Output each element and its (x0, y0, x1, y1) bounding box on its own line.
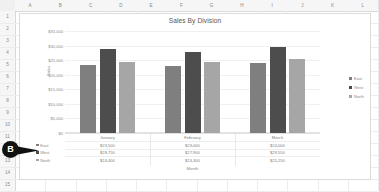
bar-north-january[interactable] (119, 62, 135, 133)
data-table-cell: $23,000 (150, 143, 235, 148)
y-axis-tick-label: $30,000 (23, 43, 63, 48)
legend-item-east[interactable]: East (349, 76, 364, 81)
data-table-cell: $24,000 (235, 143, 320, 148)
column-header-f[interactable]: F (166, 0, 197, 11)
select-all-corner[interactable] (0, 0, 16, 11)
column-header-e[interactable]: E (136, 0, 167, 11)
legend-swatch-icon (349, 86, 352, 89)
data-table-cell: $24,400 (65, 158, 150, 163)
bar-group (65, 31, 150, 133)
y-axis-tick-label: $20,000 (23, 72, 63, 77)
bar-group (235, 31, 320, 133)
bar-north-february[interactable] (204, 62, 220, 133)
legend-swatch-icon (349, 77, 352, 80)
column-header-h[interactable]: H (227, 0, 258, 11)
y-axis-tick-label: $15,000 (23, 87, 63, 92)
y-axis-tick-label: $35,000 (23, 29, 63, 34)
y-axis-tick-label: $5,000 (23, 116, 63, 121)
callout-badge-b: B (2, 141, 36, 160)
column-header-i[interactable]: I (257, 0, 288, 11)
data-table-header-march: March (235, 135, 320, 140)
data-table-cell: $28,750 (65, 150, 150, 155)
column-header-c[interactable]: C (76, 0, 107, 11)
chart-title: Sales By Division (20, 17, 370, 24)
data-table-key-label: East (40, 143, 48, 148)
column-header-l[interactable]: L (348, 0, 379, 11)
bar-east-february[interactable] (165, 66, 181, 133)
data-table-cell: $29,550 (235, 150, 320, 155)
column-header-d[interactable]: D (106, 0, 137, 11)
data-table-header-january: January (65, 135, 150, 140)
callout-bubble: B (2, 141, 19, 158)
legend-item-west[interactable]: West (349, 85, 364, 90)
grid-hline (15, 191, 378, 192)
chart-legend[interactable]: EastWestNorth (349, 76, 364, 104)
bar-west-march[interactable] (270, 47, 286, 133)
data-table-key-swatch-icon (36, 159, 39, 162)
chart-object[interactable]: Sales By Division Sales $35,000$30,000$2… (19, 13, 371, 180)
column-header-b[interactable]: B (45, 0, 76, 11)
plot-area: $35,000$30,000$25,000$20,000$15,000$10,0… (65, 31, 320, 133)
data-table-key-label: West (40, 150, 49, 155)
column-header-a[interactable]: A (15, 0, 46, 11)
legend-label: East (354, 76, 362, 81)
bar-group (150, 31, 235, 133)
bar-north-march[interactable] (289, 59, 305, 133)
row-header-15[interactable]: 15 (0, 179, 15, 192)
x-axis-title: Month (65, 166, 320, 171)
data-table-cell: $27,900 (150, 150, 235, 155)
data-table-cell: $23,500 (65, 143, 150, 148)
bar-west-february[interactable] (185, 52, 201, 133)
legend-item-north[interactable]: North (349, 94, 364, 99)
column-header-j[interactable]: J (287, 0, 318, 11)
data-table-header-february: February (150, 135, 235, 140)
column-header-k[interactable]: K (318, 0, 349, 11)
y-axis-tick-label: $25,000 (23, 58, 63, 63)
data-table-cell: $25,250 (235, 158, 320, 163)
callout-label: B (2, 141, 19, 158)
legend-label: West (354, 85, 363, 90)
data-table-cell: $24,300 (150, 158, 235, 163)
legend-label: North (354, 94, 364, 99)
chart-data-table: January$23,500$28,750$24,400February$23,… (65, 133, 320, 166)
bar-east-january[interactable] (80, 65, 96, 133)
y-axis-tick-label: $0 (23, 131, 63, 136)
column-header-g[interactable]: G (197, 0, 228, 11)
bar-west-january[interactable] (100, 49, 116, 133)
data-table-key-label: North (40, 158, 50, 163)
data-table-key-north: North (36, 158, 50, 163)
y-axis-tick-label: $10,000 (23, 101, 63, 106)
legend-swatch-icon (349, 95, 352, 98)
bar-east-march[interactable] (250, 63, 266, 133)
